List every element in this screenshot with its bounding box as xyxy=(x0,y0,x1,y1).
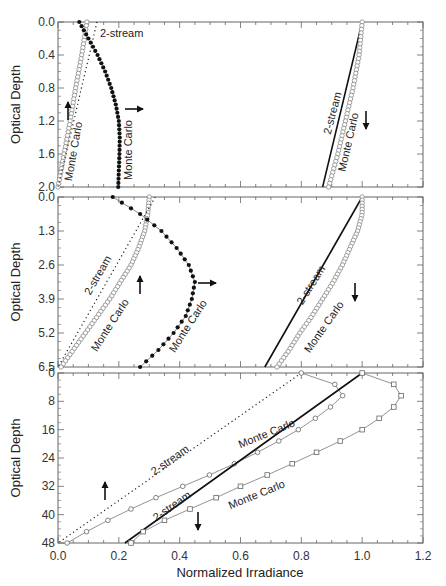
y-tick-label: 32 xyxy=(42,479,56,493)
label-monte-carlo-down: Monte Carlo xyxy=(226,478,286,512)
label-monte-carlo-down: Monte Carlo xyxy=(302,299,346,355)
y-tick-label: 0.0 xyxy=(38,15,55,29)
label-2-stream-down: 2-stream xyxy=(150,488,192,523)
x-tick-label: 0.2 xyxy=(110,549,127,563)
label-2-stream-up: 2-stream xyxy=(148,442,190,477)
label-monte-carlo-horizontal: Monte Carlo xyxy=(166,297,209,354)
series-open-circle-line xyxy=(65,371,345,546)
plot-frame xyxy=(58,197,423,367)
x-tick-label: 0.6 xyxy=(232,549,249,563)
y-axis-title: Optical Depth xyxy=(8,419,23,498)
y-tick-label: 1.3 xyxy=(38,224,55,238)
label-2-stream-up: 2-stream xyxy=(81,253,113,297)
y-tick-label: 0.0 xyxy=(38,190,55,204)
plot-frame xyxy=(58,22,423,187)
y-tick-label: 1.2 xyxy=(38,114,55,128)
y-tick-label: 0.8 xyxy=(38,81,55,95)
y-tick-label: 8 xyxy=(48,394,55,408)
irradiance-chart: 0.00.40.81.21.62.0Optical Depth2-streamM… xyxy=(0,0,446,586)
label-monte-carlo-up: Monte Carlo xyxy=(88,296,131,353)
y-axis-title: Optical Depth xyxy=(8,65,23,144)
panel-3: 081624324048Optical Depth2-streamMonte C… xyxy=(8,366,423,550)
x-tick-label: 0.8 xyxy=(293,549,310,563)
y-tick-label: 5.2 xyxy=(38,326,55,340)
x-tick-label: 0.4 xyxy=(171,549,188,563)
panel-1: 0.00.40.81.21.62.0Optical Depth2-streamM… xyxy=(8,15,423,194)
x-tick-label: 1.0 xyxy=(354,549,371,563)
y-tick-label: 2.6 xyxy=(38,258,55,272)
y-tick-label: 1.6 xyxy=(38,147,55,161)
y-tick-label: 40 xyxy=(42,508,56,522)
x-tick-label: 1.2 xyxy=(415,549,432,563)
y-tick-label: 24 xyxy=(42,451,56,465)
y-tick-label: 16 xyxy=(42,423,56,437)
y-tick-label: 0.4 xyxy=(38,48,55,62)
panel-2: 0.01.32.63.95.26.5Optical Depth2-streamM… xyxy=(8,190,423,374)
y-tick-label: 0 xyxy=(48,366,55,380)
x-axis-title: Normalized Irradiance xyxy=(176,565,303,580)
y-tick-label: 48 xyxy=(42,536,56,550)
plot-frame xyxy=(58,373,423,543)
y-tick-label: 3.9 xyxy=(38,292,55,306)
label-monte-carlo-horizontal: Monte Carlo xyxy=(122,120,134,180)
label-2-stream: 2-stream xyxy=(100,27,143,39)
label-monte-carlo-up: Monte Carlo xyxy=(236,417,296,451)
y-axis-title: Optical Depth xyxy=(8,243,23,322)
x-tick-label: 0.0 xyxy=(50,549,67,563)
series-filled-circle xyxy=(111,195,197,369)
